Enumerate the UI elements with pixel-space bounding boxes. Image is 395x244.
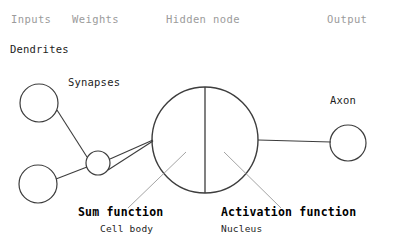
annotation-axon: Axon (330, 95, 356, 106)
header-label-inputs: Inputs (11, 14, 51, 25)
caption-activation-function: Activation function (221, 207, 356, 219)
axon-line (258, 140, 331, 142)
header-label-output: Output (327, 14, 367, 25)
caption-cell-body: Cell body (100, 224, 153, 234)
annotation-synapses: Synapses (68, 77, 120, 88)
input-node-top (20, 84, 58, 122)
neuron-diagram-canvas: Inputs Weights Hidden node Output Dendri… (0, 0, 395, 244)
caption-nucleus: Nucleus (221, 224, 262, 234)
edge-top-input-to-synapse (57, 110, 87, 157)
leader-line-activation-function (224, 152, 281, 208)
header-label-weights: Weights (72, 14, 119, 25)
edge-synapse-to-soma-lower (108, 141, 153, 170)
leader-line-sum-function (128, 152, 186, 208)
caption-sum-function: Sum function (78, 207, 163, 219)
header-label-hidden-node: Hidden node (166, 14, 240, 25)
output-node (330, 125, 366, 161)
input-node-bottom (19, 165, 57, 203)
synapse-node (86, 151, 110, 175)
edge-bottom-input-to-synapse (56, 167, 87, 179)
annotation-dendrites: Dendrites (10, 44, 69, 55)
edge-synapse-to-soma-upper (110, 140, 153, 159)
